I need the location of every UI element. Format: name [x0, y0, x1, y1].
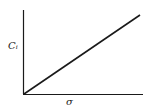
- line-chart: [0, 0, 149, 112]
- data-line: [24, 15, 140, 94]
- y-axis-label: Cᵢ: [8, 40, 18, 51]
- x-axis-label: σ: [66, 96, 73, 107]
